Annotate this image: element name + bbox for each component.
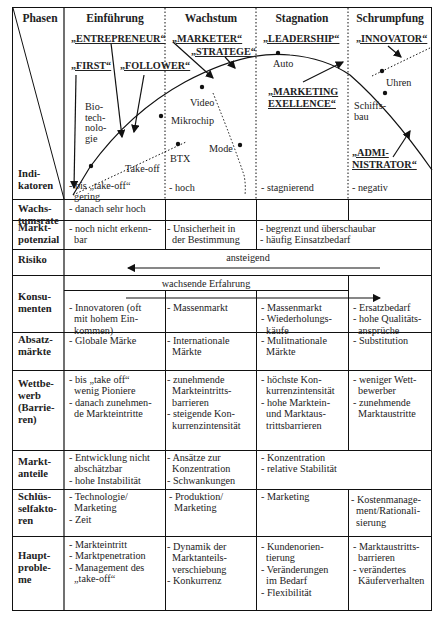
col-divider — [165, 199, 166, 220]
mikrochip-dot — [159, 114, 163, 118]
label-btx: BTX — [170, 153, 190, 164]
cell-schluesselfaktoren-einfuehrung: - Technologie/ Marketing - Zeit — [69, 491, 128, 525]
phases-label: Phasen — [18, 12, 62, 24]
row-subdivider — [64, 290, 348, 291]
row-label-marktpotenzial: Markt- potenzial — [18, 222, 64, 246]
label-mikrochip: Mikrochip — [171, 115, 214, 126]
row-divider — [12, 370, 432, 371]
schiffsbau-dot — [383, 91, 387, 95]
cell-hauptprobleme-schrumpfung: - Marktaustritts- barrieren - veränderte… — [353, 541, 424, 587]
cell-wettbewerb-stagnation: - höchste Kon- kurrenzintensität - hohe … — [261, 374, 335, 431]
cell-hauptprobleme-stagnation: - Kundenorien- tierung - Veränderungen i… — [261, 541, 328, 598]
col-divider — [348, 275, 349, 332]
role-administrator: „ADMI- NISTRATOR“ — [352, 147, 417, 170]
role-marketing-excellence: „MARKETING EXELLENCE“ — [268, 86, 338, 109]
col-divider — [165, 290, 166, 332]
cell-absatzmaerkte-wachstum: - Internationale Märkte — [167, 335, 230, 358]
label-schiffsbau: Schiffs- bau — [354, 101, 386, 122]
row-divider — [12, 489, 432, 490]
col-divider — [256, 450, 257, 489]
phase-wachstum: Wachstum — [166, 12, 256, 24]
col-divider — [165, 220, 166, 249]
label-uhren: Uhren — [386, 77, 411, 88]
col-divider — [348, 199, 349, 220]
col-divider — [348, 489, 349, 611]
role-first: „FIRST“ — [71, 60, 111, 72]
label-video: Video — [190, 97, 214, 108]
cell-marktpotenzial-wachstum: - Unsicherheit in der Bestimmung — [167, 223, 240, 246]
row-divider — [12, 275, 432, 276]
col-divider — [165, 332, 166, 450]
cell-absatzmaerkte-schrumpfung: - Substitution — [353, 335, 408, 346]
cell-marktanteile-wachstum: - Ansätze zur Konzentration - Schwankung… — [167, 452, 235, 486]
btx-dot — [176, 142, 180, 146]
take-off-dot — [89, 164, 93, 168]
phase-stagnation: Stagnation — [257, 12, 347, 24]
cell-schluesselfaktoren-wachstum: - Produktion/ Marketing — [169, 491, 223, 514]
cell-wachstumsrate-stagnation: - stagnierend — [261, 182, 314, 193]
cell-marktpotenzial-stagnation-schrumpfung: - begrenzt und überschaubar - häufig Ein… — [260, 223, 376, 246]
indicators-label: Indi- katoren — [18, 168, 64, 192]
col-divider — [256, 199, 257, 220]
uhren-dot — [380, 69, 384, 73]
cell-konsumenten-einfuehrung: - Innovatoren (oft mit hohem Ein- kommen… — [69, 302, 141, 336]
label-auto: Auto — [273, 58, 293, 69]
row-label-schluesselfaktoren: Schlüs- selfakto- ren — [18, 491, 64, 527]
cell-hauptprobleme-wachstum: - Dynamik der Marktanteils- verschiebung… — [167, 541, 227, 587]
cell-hauptprobleme-einfuehrung: - Markteintritt - Marktpenetration - Man… — [69, 539, 146, 585]
role-stratege: „STRATEGE“ — [191, 46, 256, 58]
col-divider — [348, 332, 349, 450]
row-divider — [12, 220, 432, 221]
risiko-arrow-label: ansteigend — [64, 252, 432, 263]
role-follower: „FOLLOWER“ — [120, 60, 190, 72]
row-divider — [12, 536, 432, 537]
label-biotechnologie: Bio- tech- nolo- gie — [85, 102, 107, 144]
video-dot — [200, 85, 204, 89]
cell-absatzmaerkte-einfuehrung: - Globale Märke — [69, 335, 136, 346]
role-innovator: „INNOVATOR“ — [356, 33, 427, 45]
cell-marktanteile-einfuehrung: - Entwicklung nicht abschätzbar - hohe I… — [69, 452, 150, 486]
cell-marktanteile-stagnation-schrumpfung: - Konzentration - relative Stabilität — [261, 452, 337, 475]
row-divider — [12, 249, 432, 250]
row-label-hauptprobleme: Haupt- proble- me — [18, 550, 64, 586]
cell-wettbewerb-schrumpfung: - weniger Wett- bewerber - zunehmende Ma… — [353, 374, 417, 420]
cell-wettbewerb-einfuehrung: - bis „take off“ wenig Pioniere - danach… — [69, 374, 152, 420]
row-label-wettbewerb: Wettbe- werb (Barrie- ren) — [18, 378, 64, 426]
cell-marktpotenzial-einfuehrung: - noch nicht erkenn- bar — [69, 223, 151, 246]
cell-wachstumsrate-schrumpfung: - negativ — [352, 182, 388, 193]
phase-einfuehrung: Einführung — [66, 12, 164, 24]
mode-dot — [238, 143, 242, 147]
col-divider — [165, 489, 166, 611]
label-take-off: Take-off — [125, 163, 160, 174]
row-label-risiko: Risiko — [18, 254, 64, 266]
col-divider — [256, 332, 257, 450]
col-divider — [256, 489, 257, 611]
row-divider — [12, 450, 432, 451]
col-divider — [165, 450, 166, 489]
phase-schrumpfung: Schrumpfung — [349, 12, 431, 24]
label-mode: Mode — [209, 143, 233, 154]
cell-schluesselfaktoren-stagnation: - Marketing — [261, 491, 309, 502]
row-label-marktanteile: Markt- anteile — [18, 456, 64, 480]
cell-konsumenten-schrumpfung: - Ersatzbedarf - hohe Qualitäts- ansprüc… — [353, 302, 421, 336]
col-divider — [256, 220, 257, 249]
role-leadership: „LEADERSHIP“ — [263, 33, 339, 45]
row-label-konsumenten: Konsu- menten — [18, 291, 64, 315]
auto-dot — [276, 51, 280, 55]
role-entrepreneur: „ENTREPRENEUR“ — [71, 33, 166, 45]
row-label-absatzmaerkte: Absatz- märkte — [18, 334, 64, 358]
cell-absatzmaerkte-stagnation: - Mulitnationale Märkte — [261, 335, 327, 358]
cell-konsumenten-stagnation: - Massenmarkt - Wiederholungs- käufe — [261, 302, 332, 336]
cell-wettbewerb-wachstum: - zunehmende Markteintritts- barrieren -… — [167, 374, 241, 431]
col-divider — [256, 290, 257, 332]
erfahrung-arrow-label: wachsende Erfahrung — [64, 278, 348, 289]
cell-wachstumsrate-einfuehrung: - bis „take-off“ gering - danach sehr ho… — [69, 180, 146, 214]
cell-schluesselfaktoren-schrumpfung: - Kostenmanage- ment/Rationali- sierung — [351, 494, 421, 528]
cell-konsumenten-wachstum: - Massenmarkt — [167, 302, 228, 313]
role-marketer: „MARKETER“ — [172, 33, 242, 45]
cell-wachstumsrate-wachstum: - hoch — [169, 182, 195, 193]
